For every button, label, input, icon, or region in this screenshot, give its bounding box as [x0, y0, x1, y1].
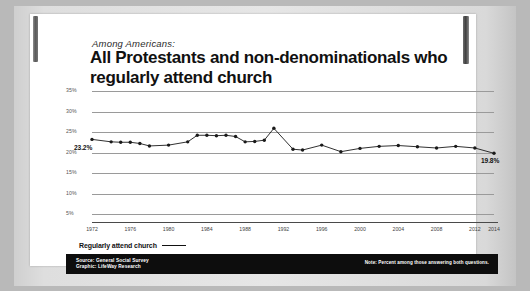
x-axis-tick-label: 1972	[86, 226, 98, 232]
data-point	[301, 148, 304, 151]
data-point	[186, 140, 189, 143]
x-axis-tick-label: 1988	[239, 226, 251, 232]
x-axis-tick-label: 2014	[488, 226, 500, 232]
data-point	[90, 138, 93, 141]
data-point	[291, 148, 294, 151]
data-point	[454, 145, 457, 148]
infographic-screenshot: Among Americans: All Protestants and non…	[0, 0, 530, 291]
x-axis-line	[92, 222, 498, 223]
x-axis-labels: 1972197619801984198819921996200020042008…	[66, 226, 498, 238]
data-point	[234, 135, 237, 138]
chart-plot-area: 35%30%25%20%15%10%5%	[66, 84, 498, 224]
data-point	[253, 140, 256, 143]
legend-label: Regularly attend church	[79, 242, 157, 249]
data-point	[416, 145, 419, 148]
data-point	[167, 143, 170, 146]
data-point	[263, 139, 266, 142]
legend-line-swatch	[162, 245, 186, 247]
x-axis-tick-label: 2000	[354, 226, 366, 232]
x-axis-tick-label: 1976	[125, 226, 137, 232]
chart-legend: Regularly attend church	[79, 242, 186, 249]
data-point	[272, 127, 275, 130]
data-point	[119, 141, 122, 144]
data-point	[377, 145, 380, 148]
start-value-label: 23.2%	[74, 144, 92, 151]
data-point	[492, 152, 495, 155]
x-axis-tick-label: 1980	[163, 226, 175, 232]
data-point	[138, 142, 141, 145]
x-axis-tick-label: 2012	[469, 226, 481, 232]
data-point	[148, 144, 151, 147]
data-point	[205, 134, 208, 137]
data-point	[320, 143, 323, 146]
data-point	[109, 140, 112, 143]
left-spine-shadow	[33, 16, 38, 62]
x-axis-tick-label: 1996	[316, 226, 328, 232]
footer-credits: Source: General Social Survey Graphic: L…	[76, 258, 149, 271]
data-point	[215, 134, 218, 137]
footer-note: Note: Percent among those answering both…	[365, 260, 489, 265]
x-axis-tick-label: 1992	[278, 226, 290, 232]
data-point	[397, 144, 400, 147]
data-line-series	[66, 84, 498, 224]
x-axis-tick-label: 2008	[431, 226, 443, 232]
chart-card: Among Americans: All Protestants and non…	[30, 14, 476, 266]
page-title: All Protestants and non-denominationals …	[90, 48, 490, 88]
footer-bar: Source: General Social Survey Graphic: L…	[66, 254, 498, 274]
x-axis-tick-label: 2004	[393, 226, 405, 232]
data-point	[473, 146, 476, 149]
data-point	[339, 150, 342, 153]
data-point	[224, 134, 227, 137]
x-axis-tick-label: 1984	[201, 226, 213, 232]
right-spine-shadow	[463, 16, 469, 64]
footer-graphic: Graphic: LifeWay Research	[76, 264, 149, 270]
data-point	[129, 141, 132, 144]
data-point	[358, 147, 361, 150]
end-value-label: 19.8%	[481, 157, 499, 164]
data-point	[243, 140, 246, 143]
data-point	[196, 134, 199, 137]
data-point	[435, 146, 438, 149]
footer-source: Source: General Social Survey	[76, 258, 149, 264]
